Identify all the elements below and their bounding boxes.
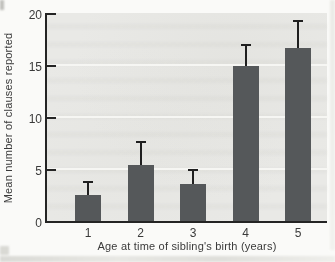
y-tick-label: 20 [14,8,42,22]
y-axis-title: Mean number of clauses reported [2,13,16,223]
scan-artifact-bottom-left-smudge [0,246,9,255]
x-tick-label: 3 [178,227,208,240]
bar [285,48,311,223]
error-bar-stem [245,45,247,66]
x-tick-label: 4 [231,227,261,240]
y-tick-label: 0 [14,216,42,230]
x-tick-label: 5 [283,227,313,240]
y-tick-label: 10 [14,112,42,126]
error-bar-stem [140,142,142,165]
scan-artifact-right-edge [330,0,335,250]
x-axis-line [45,221,327,223]
error-bar-cap [188,169,198,171]
error-bar-stem [297,21,299,48]
y-tick-mark [47,169,56,171]
error-bar-cap [293,20,303,22]
y-tick-label: 15 [14,60,42,74]
bar [128,165,154,223]
x-tick-label: 1 [73,227,103,240]
y-axis-line [45,13,47,223]
x-tick-label: 2 [126,227,156,240]
error-bar-cap [136,141,146,143]
error-bar-cap [241,44,251,46]
y-tick-mark [47,117,56,119]
y-tick-mark [47,65,56,67]
scanned-bar-chart-figure: 0510152012345 Mean number of clauses rep… [0,0,335,262]
bar [233,66,259,223]
bar [180,184,206,223]
bar [75,195,101,223]
error-bar-cap [83,181,93,183]
scan-artifact-bottom-edge [0,256,335,262]
error-bar-stem [87,182,89,194]
error-bar-stem [192,170,194,184]
x-axis-title: Age at time of sibling's birth (years) [47,240,327,252]
y-tick-mark [47,13,56,15]
y-tick-label: 5 [14,164,42,178]
scan-artifact-top-left-smudge [0,0,4,10]
